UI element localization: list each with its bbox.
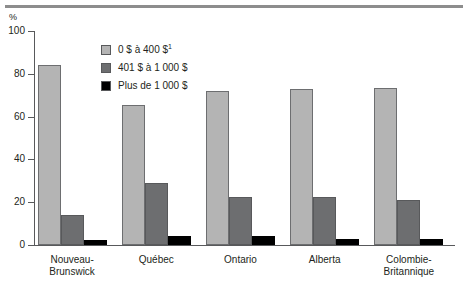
y-axis-tick — [28, 117, 34, 118]
y-axis-tick — [28, 245, 34, 246]
y-axis-tick — [28, 31, 34, 32]
bar — [313, 197, 336, 245]
black-swatch — [101, 81, 111, 91]
y-axis-line — [34, 31, 35, 246]
legend-item: 0 $ à 400 $1 — [101, 42, 261, 57]
y-axis-tick-label: 60 — [0, 112, 25, 122]
bar — [61, 215, 84, 245]
x-axis-category-label-line: Nouveau- — [30, 254, 114, 266]
bar — [38, 65, 61, 245]
bar — [290, 89, 313, 245]
bar — [420, 239, 443, 245]
x-axis-category-label: Québec — [114, 254, 198, 266]
x-axis-category-label-line: Brunswick — [30, 266, 114, 278]
legend-item: Plus de 1 000 $ — [101, 78, 261, 93]
chart-legend: 0 $ à 400 $1401 $ à 1 000 $Plus de 1 000… — [101, 42, 261, 96]
y-axis-tick — [28, 74, 34, 75]
x-axis-category-label: Nouveau-Brunswick — [30, 254, 114, 278]
plot-area: 020406080100 Nouveau-BrunswickQuébecOnta… — [0, 0, 468, 294]
medium-gray-swatch — [101, 63, 111, 73]
bar — [374, 88, 397, 245]
x-axis-category-label: Ontario — [198, 254, 282, 266]
x-axis-category-label-line: Québec — [114, 254, 198, 266]
x-axis-line — [34, 245, 455, 246]
y-axis-tick — [28, 159, 34, 160]
bar — [145, 183, 168, 245]
y-axis-tick-label: 0 — [0, 240, 25, 250]
legend-footnote-marker: 1 — [168, 43, 172, 50]
legend-item-label: Plus de 1 000 $ — [118, 80, 188, 91]
legend-item-label: 0 $ à 400 $1 — [118, 44, 172, 55]
chart-figure: % 020406080100 Nouveau-BrunswickQuébecOn… — [0, 0, 468, 294]
bar — [84, 240, 107, 245]
x-axis-category-label-line: Colombie- — [367, 254, 451, 266]
bar — [206, 91, 229, 245]
x-axis-category-label: Alberta — [283, 254, 367, 266]
legend-item-label: 401 $ à 1 000 $ — [118, 62, 188, 73]
y-axis-tick-label: 100 — [0, 26, 25, 36]
bar — [397, 200, 420, 245]
x-axis-category-label-line: Ontario — [198, 254, 282, 266]
light-gray-swatch — [101, 45, 111, 55]
x-axis-category-label-line: Alberta — [283, 254, 367, 266]
bar — [168, 236, 191, 245]
y-axis-tick-label: 20 — [0, 197, 25, 207]
x-axis-category-label-line: Britannique — [367, 266, 451, 278]
legend-item: 401 $ à 1 000 $ — [101, 60, 261, 75]
bar — [252, 236, 275, 245]
x-axis-category-label: Colombie-Britannique — [367, 254, 451, 278]
bar — [122, 105, 145, 245]
y-axis-tick — [28, 202, 34, 203]
y-axis-tick-label: 80 — [0, 69, 25, 79]
y-axis-tick-label: 40 — [0, 154, 25, 164]
bar — [336, 239, 359, 245]
bar — [229, 197, 252, 245]
